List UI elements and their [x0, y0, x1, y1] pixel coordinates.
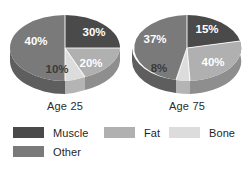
pie-chart-age-75-svg: 15% 40% 8% 37%	[128, 0, 246, 104]
pie-r-label-fat: 40%	[201, 56, 224, 68]
pie-chart-age-75: 15% 40% 8% 37%	[128, 0, 246, 104]
charts-row: 30% 20% 10% 40%	[0, 0, 251, 104]
legend-row-2: Other	[13, 144, 251, 161]
pie-r-label-other: 37%	[143, 33, 166, 45]
pie-r-label-bone: 8%	[151, 62, 168, 74]
pie-chart-age-25: 30% 20% 10% 40%	[6, 0, 124, 104]
legend-label-bone: Bone	[209, 127, 235, 139]
pie-r-wall-bone	[176, 80, 190, 94]
pie-l-label-bone: 10%	[45, 63, 68, 75]
legend-item-fat: Fat	[104, 125, 160, 140]
legend-label-fat: Fat	[144, 127, 160, 139]
legend-item-muscle: Muscle	[13, 125, 88, 140]
legend-item-other: Other	[13, 144, 81, 159]
legend-row-1: Muscle Fat Bone	[13, 125, 251, 142]
body-composition-pie-figure: 30% 20% 10% 40%	[0, 0, 251, 172]
legend-label-muscle: Muscle	[53, 127, 88, 139]
legend-swatch-fat	[104, 127, 135, 138]
legend-swatch-bone	[169, 127, 200, 138]
caption-age-25: Age 25	[6, 100, 124, 112]
pie-r-label-muscle: 15%	[195, 23, 218, 35]
legend-swatch-muscle	[13, 127, 44, 138]
legend-swatch-other	[13, 146, 44, 157]
pie-l-label-other: 40%	[24, 35, 47, 47]
legend-item-bone: Bone	[169, 125, 235, 140]
pie-l-label-muscle: 30%	[82, 26, 105, 38]
caption-age-75: Age 75	[128, 100, 246, 112]
chart-captions: Age 25 Age 75	[0, 100, 251, 120]
pie-chart-age-25-svg: 30% 20% 10% 40%	[6, 0, 124, 104]
legend-label-other: Other	[53, 146, 81, 158]
pie-l-label-fat: 20%	[79, 57, 102, 69]
legend: Muscle Fat Bone Other	[13, 125, 251, 171]
